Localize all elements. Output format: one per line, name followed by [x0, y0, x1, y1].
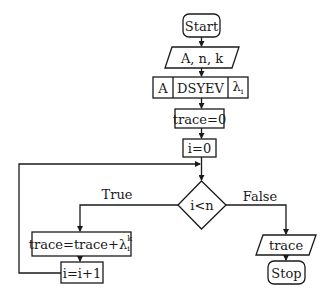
lambda-superscript: k [127, 235, 132, 243]
start-label: Start [185, 20, 218, 33]
lambda-subscript: i [127, 245, 130, 253]
init-i-label: i=0 [188, 142, 211, 155]
accumulate-text: trace=trace+λ [29, 237, 127, 252]
lambda-symbol: λ [233, 79, 241, 94]
output-label: trace [269, 239, 303, 252]
stop-label: Stop [271, 267, 301, 280]
dsyev-routine-label: DSYEV [177, 82, 224, 95]
flowchart-canvas [0, 0, 333, 302]
lambda-subscript: i [241, 87, 244, 96]
false-branch-label: False [243, 190, 277, 203]
decision-label: i<n [190, 199, 213, 212]
increment-label: i=i+1 [63, 267, 101, 280]
init-trace-label: trace=0 [173, 113, 226, 126]
true-branch-label: True [102, 188, 133, 201]
input-label: A, n, k [181, 52, 223, 65]
lambda-indices: ki [127, 238, 133, 251]
accumulate-label: trace=trace+λki [29, 238, 133, 251]
connector-true-branch [80, 205, 178, 231]
dsyev-input-label: A [158, 82, 167, 95]
connector-false-branch [226, 205, 286, 234]
dsyev-output-label: λi [233, 80, 244, 96]
